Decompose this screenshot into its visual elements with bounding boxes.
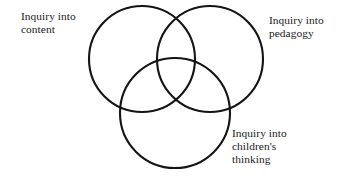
venn-diagram-canvas: Inquiry into content Inquiry into pedago… xyxy=(0,0,352,182)
circle-children-thinking xyxy=(120,58,230,168)
label-inquiry-into-childrens-thinking: Inquiry into children's thinking xyxy=(232,127,287,167)
label-inquiry-into-pedagogy: Inquiry into pedagogy xyxy=(269,14,324,40)
label-inquiry-into-content: Inquiry into content xyxy=(21,10,76,36)
